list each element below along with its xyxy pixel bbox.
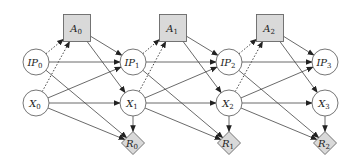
node-ip2: IP2 bbox=[216, 49, 242, 75]
edge-x2-to-ip3 bbox=[241, 67, 313, 98]
edge-ip0-to-a0 bbox=[46, 39, 64, 54]
node-ip0: IP0 bbox=[23, 49, 49, 75]
edge-x1-to-ip2 bbox=[145, 67, 217, 98]
edge-a2-to-x3 bbox=[280, 42, 317, 93]
node-x0: X0 bbox=[23, 90, 49, 116]
edge-a0-to-x1 bbox=[87, 42, 125, 93]
edge-ip1-to-a1 bbox=[143, 40, 160, 54]
node-r2: R2 bbox=[314, 132, 337, 155]
node-x1: X1 bbox=[120, 90, 146, 116]
node-ip3: IP3 bbox=[312, 49, 338, 75]
node-r1: R1 bbox=[218, 132, 241, 155]
edge-x0-to-ip1 bbox=[48, 67, 121, 98]
edge-a1-to-x2 bbox=[183, 42, 221, 93]
edge-x1-to-r1 bbox=[145, 108, 221, 140]
node-x3: X3 bbox=[312, 90, 338, 116]
edge-x0-to-r0 bbox=[48, 108, 125, 140]
node-a2: A2 bbox=[257, 15, 284, 42]
node-x2: X2 bbox=[216, 90, 242, 116]
edges-layer bbox=[42, 36, 325, 139]
edge-ip0-to-r0 bbox=[46, 70, 127, 138]
influence-diagram: A0A1A2IP0IP1IP2IP3X0X1X2X3R0R1R2 bbox=[0, 0, 358, 165]
edge-ip1-to-r1 bbox=[143, 70, 223, 137]
node-r0: R0 bbox=[122, 132, 145, 155]
edge-x2-to-r2 bbox=[241, 108, 317, 140]
edge-ip2-to-r2 bbox=[239, 70, 319, 137]
node-a0: A0 bbox=[64, 15, 91, 42]
node-ip1: IP1 bbox=[120, 49, 146, 75]
edge-ip2-to-a2 bbox=[239, 39, 257, 54]
node-a1: A1 bbox=[160, 15, 187, 42]
nodes-layer: A0A1A2IP0IP1IP2IP3X0X1X2X3R0R1R2 bbox=[23, 15, 338, 155]
